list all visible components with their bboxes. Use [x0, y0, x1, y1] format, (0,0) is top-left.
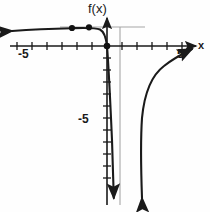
marked-point-2 [86, 24, 92, 30]
x-tick-label-negative-five: -5 [18, 48, 29, 60]
right-branch-curve [141, 49, 192, 198]
plot-canvas [0, 0, 210, 212]
function-graph-figure: f(x) x -5 5 -5 [0, 0, 210, 212]
y-tick-label-negative-five: -5 [78, 113, 89, 125]
x-axis [10, 42, 196, 50]
x-tick-label-positive-five: 5 [177, 48, 184, 60]
marked-point-1 [69, 25, 75, 31]
marked-point-origin [104, 43, 111, 50]
y-axis-label: f(x) [88, 2, 107, 15]
x-axis-label: x [198, 40, 204, 51]
